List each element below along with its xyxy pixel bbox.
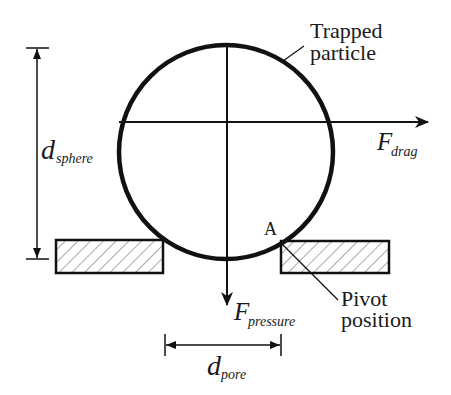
d-sphere-subscript: sphere bbox=[56, 151, 93, 166]
left-pore-wall bbox=[56, 240, 163, 273]
d-pore-label: d bbox=[207, 350, 222, 381]
f-pressure-subscript: pressure bbox=[247, 314, 295, 329]
right-pore-wall bbox=[281, 241, 389, 273]
pivot-label-line2: position bbox=[341, 307, 412, 332]
trapped-label-line2: particle bbox=[310, 40, 376, 65]
point-a-label: A bbox=[264, 219, 277, 239]
d-pore-subscript: pore bbox=[220, 367, 246, 382]
particle-trap-diagram: Trapped particle F drag d sphere A F pre… bbox=[0, 0, 451, 395]
diagram-svg: Trapped particle F drag d sphere A F pre… bbox=[0, 0, 451, 395]
f-drag-subscript: drag bbox=[391, 144, 417, 159]
trapped-particle-leader bbox=[283, 46, 304, 61]
d-sphere-label: d bbox=[41, 134, 56, 165]
pore-diameter-dimension bbox=[165, 334, 281, 356]
